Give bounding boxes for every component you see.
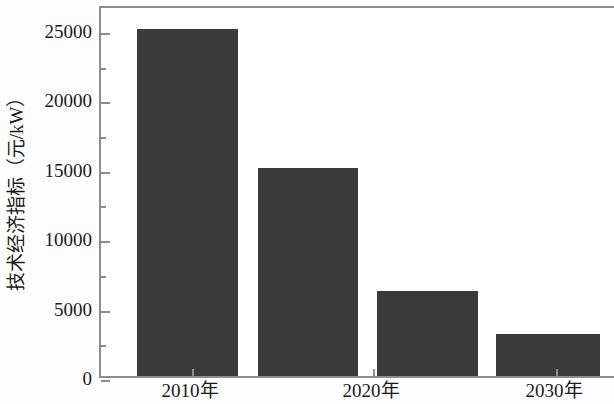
- y-axis-major-tick: [101, 33, 110, 35]
- y-axis-minor-tick: [101, 68, 106, 70]
- bar: [137, 29, 238, 376]
- y-axis-minor-tick: [101, 206, 106, 208]
- x-axis-tick-label: 2030年: [526, 381, 583, 400]
- y-axis-tick-label: 25000: [45, 21, 93, 40]
- y-axis-major-tick: [101, 241, 110, 243]
- x-axis-tick-label: 2020年: [343, 381, 400, 400]
- bar-chart-figure: 技术经济指标（元/kW） 0500010000150002000025000 2…: [0, 0, 614, 404]
- y-axis-tick-label: 0: [83, 369, 93, 388]
- y-axis-tick-label: 20000: [45, 91, 93, 110]
- bar: [496, 334, 600, 376]
- y-axis-major-tick: [101, 311, 110, 313]
- y-axis-tick-label: 5000: [54, 299, 92, 318]
- y-axis-major-tick: [101, 102, 110, 104]
- y-axis-minor-tick: [101, 345, 106, 347]
- y-axis-tick-label: 15000: [45, 160, 93, 179]
- x-axis-tick: [556, 369, 558, 376]
- x-axis-tick: [373, 369, 375, 376]
- y-axis-major-tick: [101, 380, 110, 382]
- y-axis-major-tick: [101, 172, 110, 174]
- y-axis-tick-labels: 0500010000150002000025000: [0, 0, 92, 404]
- bar: [377, 291, 478, 376]
- plot-area: [99, 6, 614, 378]
- x-axis-tick: [192, 369, 194, 376]
- y-axis-minor-tick: [101, 276, 106, 278]
- y-axis-tick-label: 10000: [45, 230, 93, 249]
- y-axis-minor-tick: [101, 137, 106, 139]
- bar: [258, 168, 358, 376]
- x-axis-tick-label: 2010年: [162, 381, 219, 400]
